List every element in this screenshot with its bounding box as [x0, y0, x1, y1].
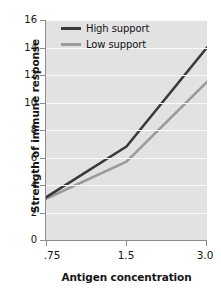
y-tick-label-10: 10 [7, 97, 37, 108]
y-tick-6 [40, 158, 45, 159]
y-tick-label-12: 12 [7, 69, 37, 80]
x-tick-label-1.5: 1.5 [103, 249, 149, 261]
y-tick-4 [40, 185, 45, 186]
y-tick-10 [40, 103, 45, 104]
legend-swatch-high-support [61, 27, 81, 30]
y-tick-label-6: 6 [7, 152, 37, 163]
legend-swatch-low-support [61, 43, 81, 46]
y-tick-14 [40, 48, 45, 49]
y-axis-line [45, 20, 46, 241]
legend-item-low-support: Low support [61, 38, 149, 51]
chart-figure: Strength of immune response High support… [0, 0, 221, 290]
line-high-support [46, 48, 207, 198]
gridline-12 [46, 75, 207, 76]
y-tick-label-2: 2 [7, 207, 37, 218]
y-tick-16 [40, 20, 45, 21]
gridline-10 [46, 103, 207, 104]
gridline-4 [46, 185, 207, 186]
y-tick-12 [40, 75, 45, 76]
x-tick-0.75 [46, 241, 47, 246]
y-tick-label-0: 0 [7, 234, 37, 245]
y-tick-label-14: 14 [7, 42, 37, 53]
x-tick-1.5 [126, 241, 127, 246]
x-tick-label-0.75: .75 [29, 249, 75, 261]
x-axis-title: Antigen concentration [46, 271, 207, 283]
x-tick-label-3.0: 3.0 [182, 249, 221, 261]
plot-area: High support Low support [46, 20, 207, 240]
legend-label-low-support: Low support [86, 39, 146, 50]
y-tick-label-16: 16 [7, 14, 37, 25]
gridline-2 [46, 213, 207, 214]
y-tick-8 [40, 130, 45, 131]
legend-label-high-support: High support [86, 23, 149, 34]
x-tick-3.0 [206, 241, 207, 246]
y-tick-2 [40, 213, 45, 214]
y-tick-label-8: 8 [7, 124, 37, 135]
legend-item-high-support: High support [61, 22, 149, 35]
gridline-6 [46, 158, 207, 159]
legend: High support Low support [61, 22, 149, 51]
gridline-16 [46, 20, 207, 21]
gridline-8 [46, 130, 207, 131]
y-tick-label-4: 4 [7, 179, 37, 190]
y-tick-0 [40, 240, 45, 241]
